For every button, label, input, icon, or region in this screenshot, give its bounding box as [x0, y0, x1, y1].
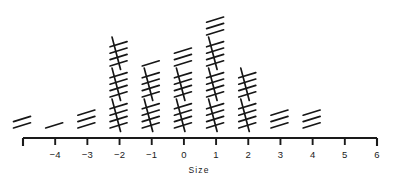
x-axis-tick-label: 4 — [310, 149, 315, 160]
tally-stroke — [207, 79, 224, 84]
tally-stroke — [271, 110, 288, 115]
tally-column — [14, 116, 31, 128]
tally-stroke — [78, 116, 95, 121]
x-axis-tick-label: 3 — [278, 149, 283, 160]
tally-stroke — [78, 110, 95, 115]
tally-marks-layer — [14, 17, 321, 132]
tally-column — [46, 123, 63, 128]
x-axis-tick-label: 5 — [342, 149, 347, 160]
tally-stroke — [110, 48, 127, 53]
tally-column — [271, 110, 288, 128]
tally-column — [78, 110, 95, 128]
tally-stroke — [271, 116, 288, 121]
tally-column — [239, 68, 256, 131]
x-axis-tick-label: 2 — [246, 149, 251, 160]
x-axis-tick-labels: −4−3−2−10123456 — [50, 149, 380, 160]
x-axis-tick-label: 0 — [181, 149, 186, 160]
tally-column — [110, 37, 127, 131]
tally-chart-svg: −4−3−2−10123456 Size — [0, 0, 398, 186]
tally-column — [174, 48, 191, 132]
tally-column — [207, 17, 224, 132]
tally-stroke — [14, 116, 31, 121]
x-axis — [23, 138, 377, 146]
tally-stroke — [207, 30, 224, 35]
tally-stroke — [207, 48, 224, 53]
tally-stroke — [303, 116, 320, 121]
tally-stroke — [207, 17, 224, 22]
tally-stroke — [110, 79, 127, 84]
tally-stroke — [271, 123, 288, 128]
tally-column — [303, 110, 320, 128]
tally-stroke — [14, 123, 31, 128]
tally-chart: −4−3−2−10123456 Size — [0, 0, 398, 186]
tally-stroke — [78, 123, 95, 128]
x-axis-tick-label: −4 — [50, 149, 61, 160]
x-axis-tick-label: 6 — [374, 149, 379, 160]
tally-stroke — [142, 61, 159, 66]
tally-stroke — [174, 48, 191, 53]
tally-stroke — [174, 110, 191, 115]
tally-stroke — [110, 110, 127, 115]
tally-stroke — [174, 79, 191, 84]
tally-stroke — [207, 110, 224, 115]
x-axis-tick-label: −2 — [114, 149, 125, 160]
tally-stroke — [303, 123, 320, 128]
tally-column — [142, 61, 159, 132]
tally-stroke — [174, 61, 191, 66]
tally-stroke — [239, 110, 256, 115]
x-axis-title: Size — [189, 165, 210, 175]
tally-stroke — [207, 23, 224, 28]
tally-stroke — [142, 79, 159, 84]
tally-stroke — [174, 54, 191, 59]
x-axis-tick-label: −1 — [146, 149, 157, 160]
tally-stroke — [303, 110, 320, 115]
x-axis-tick-label: 1 — [213, 149, 218, 160]
tally-stroke — [142, 110, 159, 115]
tally-stroke — [239, 79, 256, 84]
x-axis-tick-label: −3 — [82, 149, 93, 160]
tally-stroke — [46, 123, 63, 128]
